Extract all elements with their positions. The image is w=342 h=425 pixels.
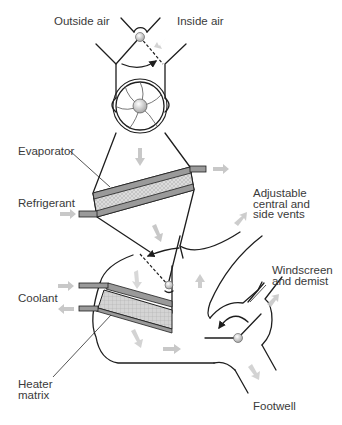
air-intake	[96, 18, 186, 98]
label-heater-matrix: Heater matrix	[18, 379, 53, 401]
blower-fan	[112, 79, 169, 133]
blend-flap	[168, 236, 180, 285]
label-windscreen: Windscreen and demist	[272, 265, 333, 286]
recirc-pivot	[136, 33, 145, 42]
label-coolant: Coolant	[18, 292, 58, 304]
recirc-flap	[116, 37, 140, 64]
heater-matrix	[58, 281, 172, 333]
flow-arrow	[152, 224, 163, 242]
blend-pivot	[165, 281, 173, 289]
label-outside-air: Outside air	[54, 15, 110, 27]
blend-flap-alt	[140, 254, 168, 285]
evaporator-core	[60, 164, 229, 219]
label-adjustable-vents: Adjustable central and side vents	[253, 188, 310, 220]
label-footwell: Footwell	[253, 400, 296, 412]
label-inside-air: Inside air	[177, 15, 224, 27]
distribution-flap	[205, 306, 261, 343]
flow-arrow	[135, 148, 145, 166]
label-refrigerant: Refrigerant	[18, 197, 75, 209]
recirc-flap-alt-position	[140, 37, 163, 64]
label-evaporator: Evaporator	[18, 145, 74, 157]
